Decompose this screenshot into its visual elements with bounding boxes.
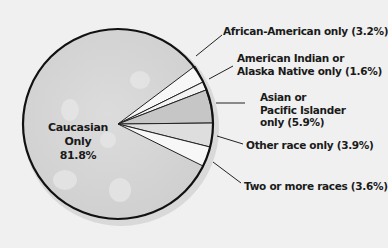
label-asian-line2: Pacific Islander [260,104,346,117]
label-asian-line1: Asian or [260,91,346,104]
label-asian: Asian or Pacific Islander only (5.9%) [260,91,346,129]
label-asian-line3: only (5.9%) [260,116,346,129]
label-american-indian-line2: Alaska Native only (1.6%) [237,65,382,78]
label-african-american: African-American only (3.2%) [223,25,388,38]
label-two-or-more: Two or more races (3.6%) [244,180,388,193]
label-american-indian-line1: American Indian or [237,52,382,65]
label-caucasian-line2: Only [38,135,118,149]
label-caucasian: Caucasian Only 81.8% [38,121,118,163]
label-caucasian-value: 81.8% [38,149,118,163]
label-caucasian-line1: Caucasian [38,121,118,135]
label-american-indian: American Indian or Alaska Native only (1… [237,52,382,77]
label-other: Other race only (3.9%) [246,139,374,152]
